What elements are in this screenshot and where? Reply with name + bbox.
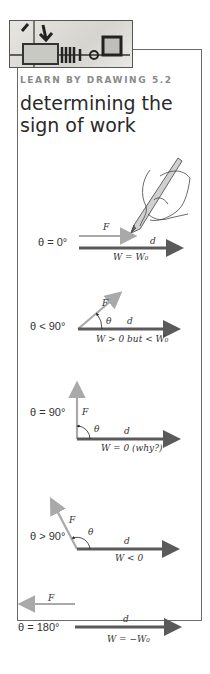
- force-label-3: F: [69, 515, 75, 525]
- hand-pencil-icon: [131, 158, 190, 233]
- angle-label-3: θ: [88, 527, 93, 537]
- theta-label-4: θ = 180°: [18, 621, 59, 633]
- theta-label-3: θ > 90°: [30, 530, 65, 542]
- work-label-0: W = W₀: [113, 252, 148, 262]
- displacement-label-4: d: [123, 614, 129, 624]
- angle-label-1: θ: [106, 316, 111, 326]
- displacement-label-0: d: [150, 236, 156, 246]
- force-label-2: F: [82, 407, 88, 417]
- force-label-4: F: [48, 593, 54, 603]
- force-label-0: F: [103, 222, 109, 232]
- work-label-4: W = −W₀: [107, 634, 150, 644]
- work-label-3: W < 0: [115, 553, 143, 563]
- theta-label-2: θ = 90°: [30, 406, 65, 418]
- force-label-1: F: [102, 298, 108, 308]
- displacement-label-1: d: [127, 316, 133, 326]
- work-label-1: W > 0 but < W₀: [96, 334, 168, 344]
- theta-label-0: θ = 0°: [38, 236, 67, 248]
- work-label-2: W = 0 (why?): [101, 443, 163, 453]
- displacement-label-2: d: [124, 426, 130, 436]
- displacement-label-3: d: [124, 536, 130, 546]
- angle-label-2: θ: [94, 424, 99, 434]
- theta-label-1: θ < 90°: [30, 320, 65, 332]
